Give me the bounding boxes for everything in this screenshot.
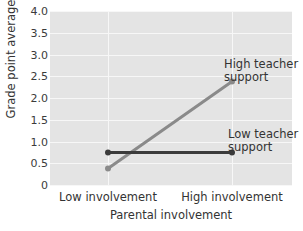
annotation-low-teacher-support: Low teacher support [228,128,298,154]
series-line [108,81,232,168]
annotation-high-teacher-support: High teacher support [224,58,298,84]
series-high-teacher-support [105,78,235,171]
annotation-low-line2: support [228,141,298,154]
data-point-marker [105,165,111,171]
annotation-high-line2: support [224,71,298,84]
data-point-marker [105,149,111,155]
data-series-layer [0,0,303,231]
chart-container: 00.51.01.52.02.53.03.54.0 Grade point av… [0,0,303,231]
series-low-teacher-support [105,149,235,155]
